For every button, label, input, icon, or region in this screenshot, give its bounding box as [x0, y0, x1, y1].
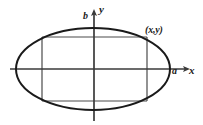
semi-major-axis-label: a [172, 66, 177, 76]
semi-minor-axis-label: b [83, 11, 88, 21]
ellipse-figure: b y a x (x,y) [0, 0, 203, 125]
x-axis-label: x [189, 65, 194, 76]
x-axis [10, 66, 190, 72]
point-coordinate-label: (x,y) [145, 25, 163, 35]
y-axis [91, 9, 97, 121]
y-axis-label: y [99, 4, 104, 15]
figure-canvas [0, 0, 203, 125]
